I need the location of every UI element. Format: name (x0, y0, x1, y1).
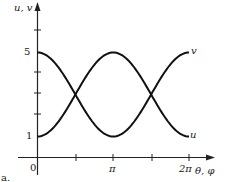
x-axis-arrow-icon (206, 155, 215, 161)
panel-label: a. (1, 172, 10, 182)
x-tick-label-2pi: 2π (178, 163, 192, 174)
y-tick-label-5: 5 (24, 46, 30, 57)
curve-label-v: v (191, 45, 197, 56)
y-tick-label-1: 1 (26, 130, 32, 141)
y-axis-label: u, v (14, 2, 33, 13)
curve-v (38, 53, 190, 137)
curve-u (38, 53, 190, 137)
curve-label-u: u (190, 129, 196, 140)
x-tick-label-pi: π (108, 163, 116, 174)
x-axis-label: θ, φ (195, 165, 214, 176)
y-axis-arrow-icon (35, 2, 41, 11)
chart: u, v θ, φ 5 1 0 π 2π v u a. (0, 0, 226, 182)
x-tick-label-0: 0 (30, 162, 36, 173)
